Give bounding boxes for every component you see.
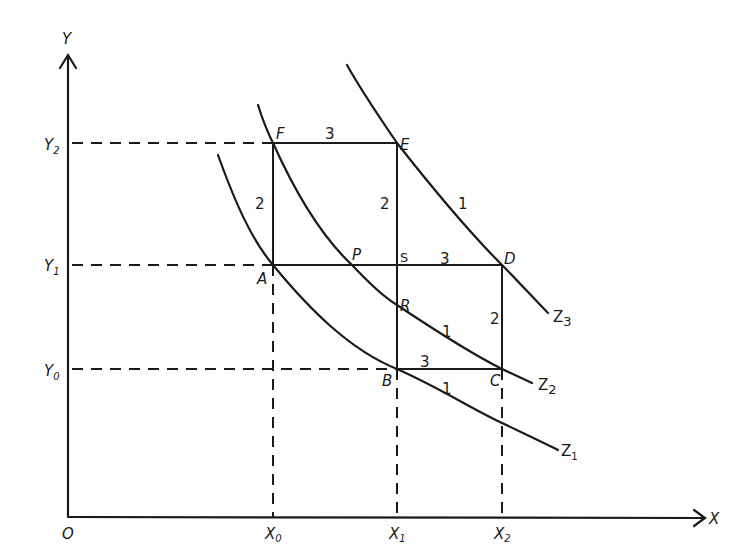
construction-lines: [273, 143, 502, 369]
curve-Z2: [258, 105, 532, 383]
label-DC: 2: [490, 310, 500, 328]
isoquant-diagram: Y X O Y2 Y1 Y0 X0 X1 X2 F: [0, 0, 756, 555]
tick-y1: Y1: [44, 257, 60, 277]
origin-label: O: [62, 525, 74, 543]
x-axis-label: X: [708, 510, 720, 528]
label-Z1: Z1: [561, 442, 578, 462]
label-ES: 2: [380, 195, 390, 213]
x-tick-labels: X0 X1 X2: [264, 525, 511, 544]
tick-x0: X0: [264, 525, 282, 544]
tick-x1: X1: [388, 525, 406, 544]
point-R: R: [400, 297, 410, 315]
label-B-curve-Z1: 1: [442, 380, 452, 398]
y-tick-labels: Y2 Y1 Y0: [44, 136, 60, 382]
y-axis-label: Y: [62, 30, 73, 48]
curve-Z3: [347, 65, 548, 313]
tick-y0: Y0: [44, 362, 60, 382]
point-E: E: [400, 136, 410, 154]
point-F: F: [276, 125, 285, 143]
label-FE: 3: [325, 125, 335, 143]
label-Z3: Z3: [553, 308, 572, 329]
point-P: P: [352, 246, 362, 264]
label-BC: 3: [420, 353, 430, 371]
axes: Y X O: [60, 30, 720, 543]
label-FA: 2: [255, 195, 265, 213]
label-Z2: Z2: [538, 376, 557, 397]
point-B: B: [382, 372, 392, 390]
point-labels: F E D A P S R B C: [256, 125, 516, 390]
point-S: S: [400, 250, 408, 265]
point-D: D: [504, 250, 516, 268]
tick-x2: X2: [493, 525, 511, 544]
label-RC-curve: 1: [442, 323, 452, 341]
point-A: A: [256, 270, 267, 288]
label-SD: 3: [440, 250, 450, 268]
dashed-guides: [72, 143, 502, 517]
curve-names: Z3 Z2 Z1: [538, 308, 578, 462]
label-ED-curve: 1: [458, 195, 468, 213]
x-axis: [68, 517, 703, 518]
tick-y2: Y2: [44, 136, 60, 156]
point-C: C: [490, 372, 501, 390]
segment-labels: 3 2 2 1 3 2 1 3 1: [255, 125, 500, 398]
